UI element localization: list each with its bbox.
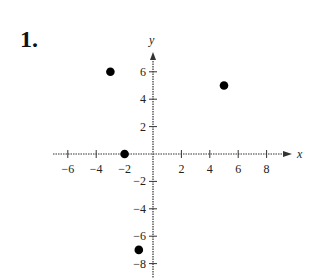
coordinate-plane: xy−6−4−22468642−2−4−6−8 [0,0,323,278]
x-axis-arrow-icon [283,151,292,157]
x-tick-label: −6 [61,162,74,176]
x-tick-label: −4 [90,162,103,176]
x-tick-label: 4 [207,162,213,176]
data-point [220,81,229,90]
y-tick-label: −4 [133,202,146,216]
data-point [120,150,129,159]
x-tick-label: 6 [235,162,241,176]
y-tick-label: −2 [133,174,146,188]
y-tick-label: 2 [140,120,146,134]
y-tick-label: −6 [133,229,146,243]
data-point [106,68,115,77]
x-tick-label: 2 [178,162,184,176]
y-axis-label: y [148,33,155,47]
y-tick-label: −8 [133,257,146,271]
x-tick-label: −2 [118,162,131,176]
y-tick-label: 6 [140,65,146,79]
x-axis-label: x [296,147,303,161]
y-axis-arrow-icon [150,52,156,60]
y-tick-label: 4 [140,92,146,106]
data-point [135,246,144,255]
x-tick-label: 8 [264,162,270,176]
